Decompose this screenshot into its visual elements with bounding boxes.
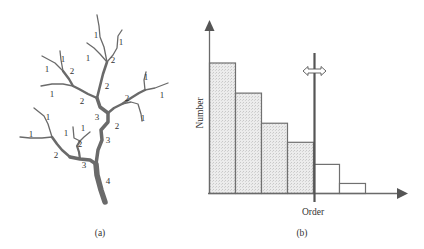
order-label: 2	[78, 139, 83, 149]
tree-diagram	[20, 15, 168, 202]
branch-order-2-upper	[97, 62, 107, 98]
bar-order-1	[210, 63, 236, 194]
order-label: 1	[86, 53, 91, 63]
order-label: 2	[70, 66, 75, 76]
bars	[210, 63, 366, 194]
order-label: 2	[54, 150, 59, 160]
order-label: 2	[111, 55, 116, 65]
branch-order-1	[145, 83, 168, 90]
order-number-chart: Number Order (b)	[195, 20, 409, 239]
bar-order-6	[340, 183, 366, 193]
branch-order-4	[96, 164, 105, 202]
order-label: 2	[115, 121, 120, 131]
order-label: 3	[82, 160, 87, 170]
caption-a: (a)	[95, 228, 106, 239]
order-label: 1	[144, 72, 149, 82]
branch-order-3-main	[96, 98, 108, 164]
order-label: 4	[106, 176, 111, 186]
order-label: 1	[61, 54, 66, 64]
branch-order-1	[97, 15, 107, 62]
order-label: 2	[125, 93, 130, 103]
order-label: 1	[94, 30, 99, 40]
y-axis-label: Number	[195, 97, 205, 129]
x-axis-label: Order	[302, 207, 325, 217]
order-label: 3	[106, 135, 111, 145]
order-label: 1	[141, 113, 146, 123]
order-label: 1	[50, 89, 55, 99]
branch-order-1	[20, 137, 52, 138]
order-label: 1	[81, 123, 86, 133]
y-axis-arrow-icon	[205, 20, 215, 31]
bar-order-3	[262, 123, 288, 193]
x-axis-arrow-icon	[397, 188, 408, 199]
order-label: 1	[29, 129, 34, 139]
order-label: 1	[64, 128, 69, 138]
branch-order-1	[122, 102, 142, 121]
order-label: 3	[95, 112, 100, 122]
order-label: 1	[46, 112, 51, 122]
order-label: 2	[105, 81, 110, 91]
bar-order-5	[314, 164, 340, 193]
order-label: 2	[80, 96, 85, 106]
bar-order-4	[288, 142, 314, 193]
branch-order-1	[41, 84, 73, 86]
bar-order-2	[236, 93, 262, 193]
order-label: 1	[160, 90, 165, 100]
order-label: 1	[45, 64, 50, 74]
caption-b: (b)	[296, 228, 307, 239]
order-label: 1	[119, 37, 124, 47]
